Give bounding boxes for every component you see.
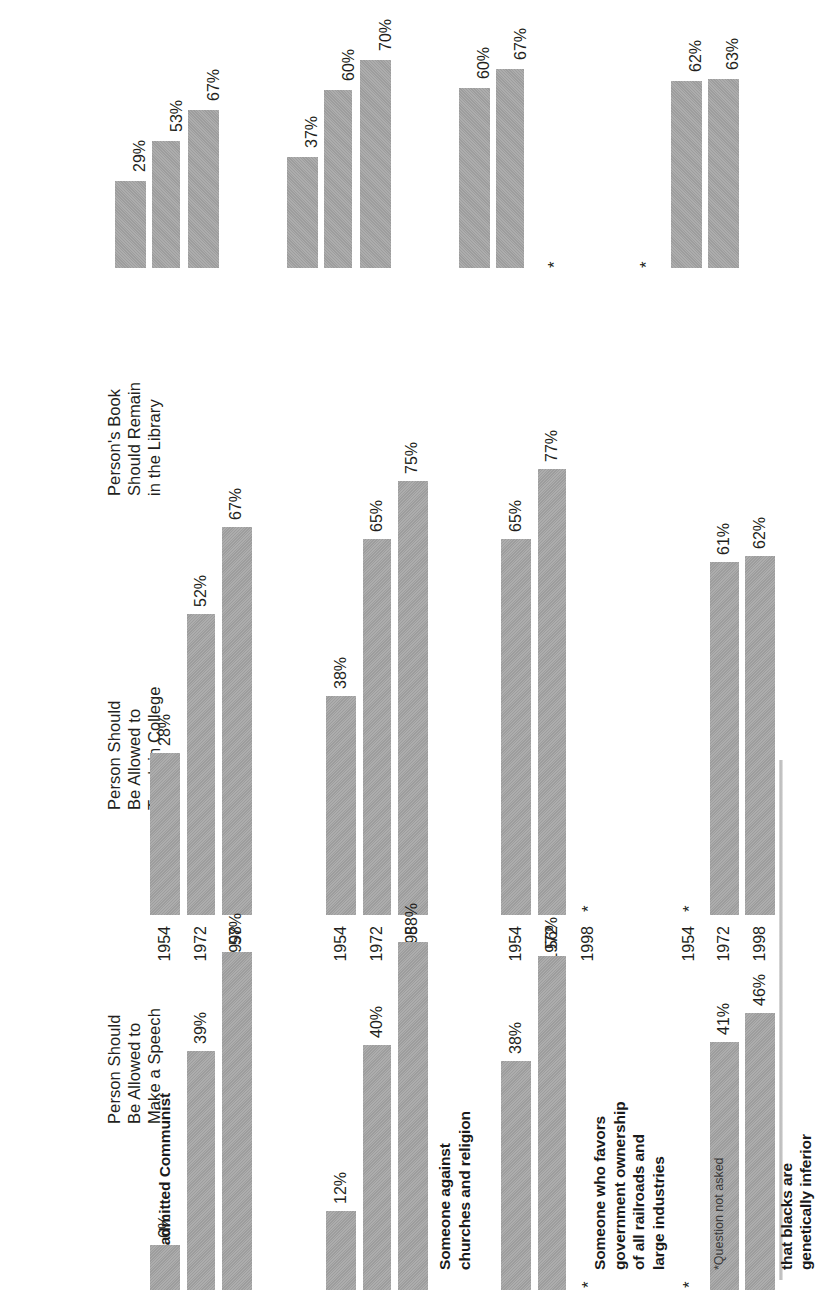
bar-speech-g2-1954 (326, 696, 356, 915)
bar-value-speech-g1-1972: 52% (193, 575, 209, 607)
bar-value-speech-g4-1998: 62% (752, 517, 768, 549)
bar-speech-g1-1972 (187, 614, 215, 915)
bar-teach-g2-1972 (363, 1045, 391, 1290)
bar-speech-g3-1972 (538, 469, 566, 915)
year-label-g3-1954: 1954 (508, 926, 524, 972)
bar-value-teach-g1-1972: 39% (193, 1012, 209, 1044)
bar-value-teach-g2-1972: 40% (369, 1006, 385, 1038)
bar-value-teach-g1-1954: 6% (157, 1215, 173, 1238)
panel-title-library: Person's Book Should Remain in the Libra… (104, 296, 164, 496)
bar-speech-g2-1998 (398, 481, 428, 915)
bar-teach-g1-1972 (187, 1051, 215, 1290)
bar-speech-g1-1998 (222, 527, 252, 915)
bar-speech-g3-1954 (501, 539, 531, 915)
bar-speech-g2-1972 (363, 539, 391, 915)
bar-value-speech-g2-1954: 38% (333, 657, 349, 689)
bar-teach-g3-1972 (538, 956, 566, 1290)
year-label-g3-1998: 1998 (580, 926, 596, 972)
bar-teach-g1-1998 (222, 952, 252, 1290)
bar-value-speech-g3-1972: 77% (544, 430, 560, 462)
year-label-g2-1954: 1954 (333, 926, 349, 972)
bar-value-speech-g4-1972: 61% (716, 523, 732, 555)
bar-teach-g4-1972 (710, 1042, 739, 1290)
bar-value-teach-g3-1972: 56% (544, 917, 560, 949)
bar-teach-g4-1998 (745, 1013, 775, 1290)
bar-speech-g1-1954 (150, 753, 180, 915)
group-label-government-ownership: Someone who favors government ownership … (590, 1030, 668, 1270)
na-mark-teach-g3-1998: * (580, 1281, 597, 1288)
year-label-g2-1972: 1972 (369, 926, 385, 972)
na-mark-speech-g3-1998: * (580, 905, 597, 912)
na-mark-speech-g4-1954: * (681, 905, 698, 912)
year-label-g1-1972: 1972 (193, 926, 209, 972)
na-mark-teach-g4-1954: * (681, 1281, 698, 1288)
bar-value-speech-g2-1972: 65% (369, 500, 385, 532)
year-label-g1-1954: 1954 (157, 926, 173, 972)
bar-value-teach-g2-1954: 12% (333, 1172, 349, 1204)
bar-value-speech-g3-1954: 65% (508, 500, 524, 532)
group-label-against-churches: Someone against churches and religion (435, 1035, 474, 1270)
bar-teach-g2-1954 (326, 1211, 356, 1290)
bar-speech-g4-1998 (745, 556, 775, 915)
bar-speech-g4-1972 (710, 562, 739, 915)
bar-value-speech-g1-1954: 28% (157, 714, 173, 746)
bar-teach-g2-1998 (398, 942, 428, 1290)
year-label-g4-1972: 1972 (716, 926, 732, 972)
bar-value-teach-g1-1998: 57% (228, 913, 244, 945)
bar-value-teach-g4-1972: 41% (716, 1003, 732, 1035)
year-label-g4-1954: 1954 (681, 926, 697, 972)
bar-teach-g3-1954 (501, 1061, 531, 1290)
bar-value-teach-g4-1998: 46% (752, 974, 768, 1006)
bar-value-speech-g1-1998: 67% (228, 488, 244, 520)
bar-value-teach-g3-1954: 38% (508, 1022, 524, 1054)
bar-teach-g1-1954 (150, 1245, 180, 1290)
bar-value-teach-g2-1998: 58% (404, 903, 420, 935)
bar-value-speech-g2-1998: 75% (404, 442, 420, 474)
year-label-g4-1998: 1998 (752, 926, 768, 972)
